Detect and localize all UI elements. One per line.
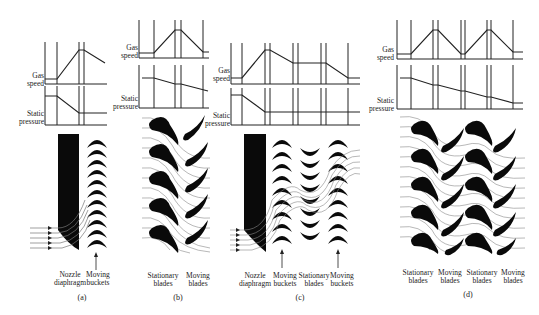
moving-blades-2 <box>493 128 516 255</box>
moving-buckets <box>87 140 107 248</box>
panel-c: Nozzle diaphragm Moving buckets Stationa… <box>230 0 370 315</box>
stage-label-stationary-blades-1: Stationary blades <box>400 269 436 285</box>
stage-label-moving-blades-1: Moving blades <box>436 269 464 285</box>
static-pressure-label-d: Static pressure <box>356 97 394 113</box>
stationary-blades <box>149 117 178 253</box>
moving-blades <box>183 115 208 244</box>
panel-d: Stationary blades Moving blades Stationa… <box>370 0 539 315</box>
static-pressure-label: Static pressure <box>6 110 44 126</box>
static-pressure-label-b: Static pressure <box>100 95 138 111</box>
stationary-blades-c <box>300 148 320 240</box>
nozzle-diaphragm-block <box>58 134 79 230</box>
panel-c-graphics <box>230 0 370 315</box>
gas-speed-label-c: Gas speed <box>200 67 230 83</box>
gas-speed-label-b: Gas speed <box>108 44 138 60</box>
stage-label-stationary-blades-2: Stationary blades <box>464 269 500 285</box>
gas-speed-label: Gas speed <box>14 72 44 88</box>
stage-label-moving-buckets: Moving buckets <box>84 271 112 287</box>
moving-buckets-2 <box>328 140 348 244</box>
stage-label-moving-blades-2: Moving blades <box>499 269 527 285</box>
stage-label-moving-buckets-1: Moving buckets <box>271 272 299 288</box>
stage-label-stationary-blades: Stationary blades <box>144 272 182 288</box>
panel-caption-b: (b) <box>168 293 188 302</box>
moving-buckets-1 <box>272 140 292 244</box>
static-pressure-label-c: Static pressure <box>192 112 230 128</box>
panel-caption-d: (d) <box>458 290 478 299</box>
panel-caption-c: (c) <box>290 293 310 302</box>
panel-b: Stationary blades Moving blades (b) <box>130 0 230 315</box>
stage-label-moving-buckets-2: Moving buckets <box>328 272 356 288</box>
gas-speed-label-d: Gas speed <box>364 46 394 62</box>
stage-label-moving-blades: Moving blades <box>183 272 213 288</box>
panel-caption-a: (a) <box>72 293 92 302</box>
nozzle-diaphragm-block <box>244 134 266 230</box>
stage-label-stationary-blades: Stationary blades <box>298 272 330 288</box>
stage-label-nozzle-diaphragm: Nozzle diaphragm <box>235 272 275 288</box>
panel-b-graphics <box>130 0 230 315</box>
